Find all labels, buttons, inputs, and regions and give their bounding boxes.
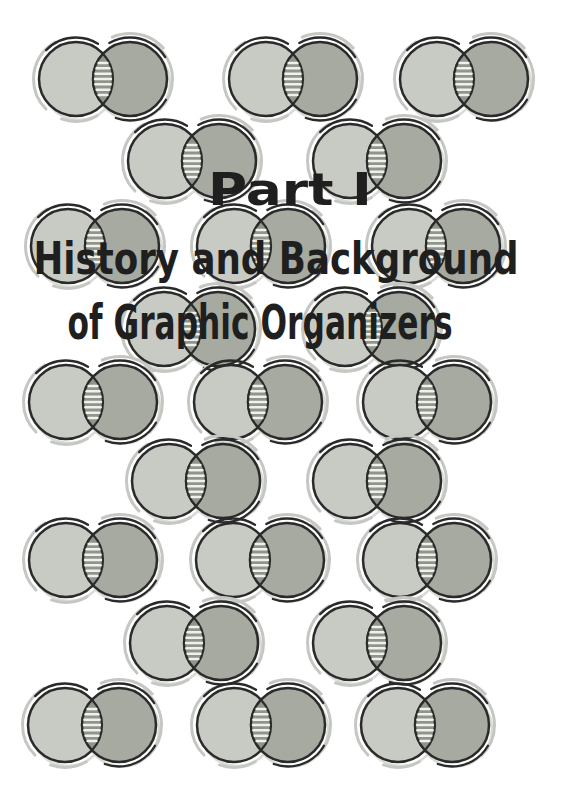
venn-motif-r1c2 [224,34,366,125]
venn-motif-r1c3 [395,34,537,125]
part-subtitle-line-1: History and Background [34,232,519,285]
venn-motif-r9c2 [192,680,334,771]
venn-motif-r5c3 [358,357,500,448]
part-number-title: Part I [208,163,372,216]
book-part-title-page: Part I History and Background of Graphic… [0,0,570,792]
venn-motif-r1c1 [34,34,176,125]
venn-motif-r9c3 [356,680,498,771]
venn-motif-r9c1 [23,680,165,771]
venn-motif-r6c1 [127,436,269,527]
venn-motif-r7c3 [358,515,500,606]
part-subtitle-line-2: of Graphic Organizers [68,294,453,350]
venn-motif-r7c1 [24,515,166,606]
venn-motif-r7c2 [191,515,333,606]
venn-pattern-artwork: Part I History and Background of Graphic… [0,0,570,792]
venn-motif-r6c2 [308,436,450,527]
venn-motif-r8c2 [308,598,450,689]
venn-motif-r5c1 [24,357,166,448]
venn-motif-r8c1 [125,598,267,689]
